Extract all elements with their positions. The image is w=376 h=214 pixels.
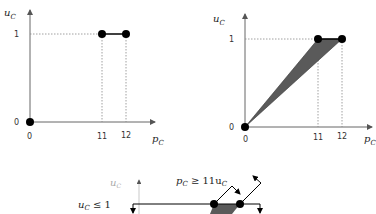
point	[210, 200, 218, 208]
constraint-arrow	[253, 176, 261, 183]
x-tick: 12	[121, 131, 131, 140]
y-tick: 1	[14, 30, 19, 39]
y-axis-label: uC	[110, 177, 121, 189]
point	[98, 30, 106, 38]
diagram-canvas: uC pC 0 1 0 11 12 uC pC 0 1 0 11 12 uC	[0, 0, 376, 214]
constraint-label-uc: uC ≤ 1	[78, 199, 111, 212]
x-tick: 0	[243, 135, 248, 144]
y-axis-label: uC	[213, 13, 225, 27]
point	[314, 35, 322, 43]
y-tick: 1	[229, 35, 234, 44]
shaded-region	[245, 39, 342, 127]
bottom-panel: uC uC ≤ 1 pC ≥ 11uC	[78, 175, 261, 214]
y-axis-label: uC	[4, 7, 16, 21]
x-tick: 12	[337, 132, 347, 141]
x-tick: 0	[27, 132, 32, 141]
x-axis-label: pC	[364, 133, 376, 147]
point	[122, 30, 130, 38]
y-tick: 0	[229, 123, 234, 132]
point	[241, 123, 249, 131]
left-panel: uC pC 0 1 0 11 12	[4, 7, 164, 147]
constraint-arrow	[232, 186, 240, 194]
constraint-line-pc	[240, 183, 261, 204]
point	[236, 200, 244, 208]
x-axis-label: pC	[152, 133, 164, 147]
x-tick: 11	[313, 133, 323, 142]
constraint-label-pc: pC ≥ 11uC	[176, 175, 228, 188]
x-tick: 11	[97, 132, 107, 141]
point	[26, 118, 34, 126]
right-panel: uC pC 0 1 0 11 12	[213, 13, 376, 147]
point	[338, 35, 346, 43]
y-tick: 0	[14, 118, 19, 127]
